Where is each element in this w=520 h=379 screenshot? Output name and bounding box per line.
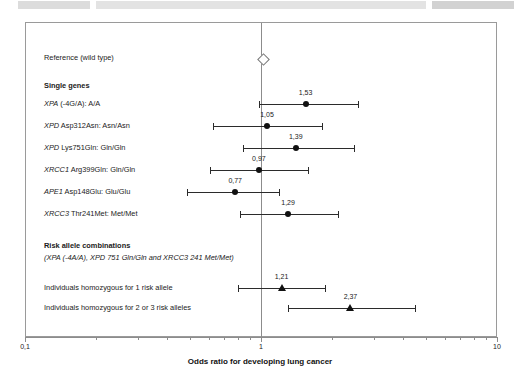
genotype-text: Asp148Glu: Glu/Glu <box>63 187 130 196</box>
odds-ratio-triangle-marker <box>278 284 286 291</box>
ci-cap-lower <box>240 211 241 218</box>
odds-ratio-circle-marker <box>303 101 309 107</box>
ci-bar <box>259 104 359 105</box>
x-axis-tick-minor <box>374 337 375 340</box>
forest-row-label: Reference (wild type) <box>44 51 114 65</box>
odds-ratio-value: 0,97 <box>252 155 266 162</box>
forest-row: XRCC1 Arg399Gln: Gln/Gln0,97 <box>26 163 496 177</box>
x-axis-tick-minor <box>96 337 97 340</box>
forest-row: XPA (-4G/A): A/A1,53 <box>26 97 496 111</box>
x-axis-tick-minor <box>209 337 210 340</box>
genotype-text: Arg399Gln: Gln/Gln <box>69 165 135 174</box>
odds-ratio-circle-marker <box>293 145 299 151</box>
ci-cap-upper <box>308 167 309 174</box>
x-axis-tick-minor <box>138 337 139 340</box>
gene-name: XPD <box>44 121 59 130</box>
section-subheading-text: (XPA (-4A/A), XPD 751 Gln/Gln and XRCC3 … <box>44 251 234 265</box>
ci-cap-upper <box>338 211 339 218</box>
x-axis-tick-minor <box>445 337 446 340</box>
section-subheading: (XPA (-4A/A), XPD 751 Gln/Gln and XRCC3 … <box>26 251 496 265</box>
x-axis-title: Odds ratio for developing lung cancer <box>0 357 520 366</box>
x-axis-tick-minor <box>250 337 251 340</box>
scan-artifact-segment <box>96 1 426 9</box>
genotype-text: Thr241Met: Met/Met <box>69 209 137 218</box>
genotype-text: Lys751Gln: Gln/Gln <box>59 143 125 152</box>
x-axis-tick-minor <box>238 337 239 340</box>
odds-ratio-circle-marker <box>256 167 262 173</box>
scan-artifact-segment <box>18 1 90 9</box>
ci-cap-lower <box>213 123 214 130</box>
ci-bar <box>243 148 355 149</box>
x-axis-tick-label: 1 <box>259 343 263 350</box>
odds-ratio-value: 1,05 <box>260 111 274 118</box>
x-axis-tick-minor <box>403 337 404 340</box>
reference-diamond-marker <box>257 53 270 66</box>
confidence-interval <box>243 141 355 155</box>
forest-row: Individuals homozygous for 2 or 3 risk a… <box>26 301 496 315</box>
forest-row-label: XPD Asp312Asn: Asn/Asn <box>44 119 130 133</box>
ci-cap-lower <box>210 167 211 174</box>
ci-cap-upper <box>322 123 323 130</box>
x-axis-tick-minor <box>486 337 487 340</box>
ci-cap-lower <box>288 305 289 312</box>
gene-name: XPA <box>44 99 58 108</box>
forest-row-label: XPD Lys751Gln: Gln/Gln <box>44 141 125 155</box>
odds-ratio-value: 1,39 <box>289 133 303 140</box>
x-axis-tick-minor <box>474 337 475 340</box>
forest-row-label: XRCC3 Thr241Met: Met/Met <box>44 207 138 221</box>
odds-ratio-circle-marker <box>264 123 270 129</box>
section-heading-text: Single genes <box>44 79 90 93</box>
ci-cap-upper <box>354 145 355 152</box>
x-axis-tick-minor <box>332 337 333 340</box>
gene-name: XRCC3 <box>44 209 69 218</box>
scan-artifact-strip <box>0 0 520 11</box>
x-axis-tick-minor <box>190 337 191 340</box>
confidence-interval <box>259 97 359 111</box>
forest-row-label: Individuals homozygous for 2 or 3 risk a… <box>44 301 191 315</box>
odds-ratio-value: 1,53 <box>299 89 313 96</box>
ci-cap-lower <box>238 285 239 292</box>
x-axis-tick-minor <box>426 337 427 340</box>
x-axis-tick-major <box>261 337 262 342</box>
scan-artifact-segment <box>432 1 514 9</box>
odds-ratio-value: 1,29 <box>281 199 295 206</box>
forest-row: XPD Lys751Gln: Gln/Gln1,39 <box>26 141 496 155</box>
forest-row: APE1 Asp148Glu: Glu/Glu0,77 <box>26 185 496 199</box>
forest-plot-frame: Reference (wild type)Single genesXPA (-4… <box>25 22 497 337</box>
x-axis-tick-label: 10 <box>493 343 501 350</box>
ci-cap-upper <box>279 189 280 196</box>
x-axis-tick-minor <box>460 337 461 340</box>
x-axis-tick-minor <box>167 337 168 340</box>
x-axis-tick-major <box>497 337 498 342</box>
forest-row: Individuals homozygous for 1 risk allele… <box>26 281 496 295</box>
gene-name: XPD <box>44 143 59 152</box>
genotype-text: Asp312Asn: Asn/Asn <box>59 121 130 130</box>
ci-cap-upper <box>358 101 359 108</box>
forest-row-label: Individuals homozygous for 1 risk allele <box>44 281 173 295</box>
x-axis-tick-minor <box>224 337 225 340</box>
odds-ratio-triangle-marker <box>346 304 354 311</box>
gene-name: APE1 <box>44 187 63 196</box>
forest-row-label: XRCC1 Arg399Gln: Gln/Gln <box>44 163 135 177</box>
forest-row-label: XPA (-4G/A): A/A <box>44 97 100 111</box>
x-axis-tick-major <box>25 337 26 342</box>
forest-row-label: APE1 Asp148Glu: Glu/Glu <box>44 185 130 199</box>
section-heading: Single genes <box>26 79 496 93</box>
ci-cap-lower <box>243 145 244 152</box>
forest-row: XPD Asp312Asn: Asn/Asn1,05 <box>26 119 496 133</box>
gene-name: XRCC1 <box>44 165 69 174</box>
odds-ratio-value: 1,21 <box>275 273 289 280</box>
x-axis-tick-label: 0,1 <box>20 343 30 350</box>
ci-cap-upper <box>415 305 416 312</box>
forest-row: XRCC3 Thr241Met: Met/Met1,29 <box>26 207 496 221</box>
genotype-text: (-4G/A): A/A <box>58 99 100 108</box>
ci-cap-lower <box>187 189 188 196</box>
ci-cap-upper <box>325 285 326 292</box>
odds-ratio-value: 2,37 <box>344 293 358 300</box>
forest-row: Reference (wild type) <box>26 51 496 65</box>
ci-cap-lower <box>259 101 260 108</box>
odds-ratio-value: 0,77 <box>228 177 242 184</box>
